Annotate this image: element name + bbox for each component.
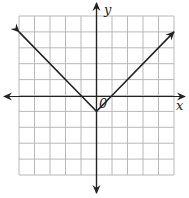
x-axis-label: x [176, 98, 184, 113]
origin-label: 0 [99, 96, 107, 111]
coordinate-plane: y x 0 [0, 0, 189, 198]
y-axis-label: y [103, 2, 112, 17]
